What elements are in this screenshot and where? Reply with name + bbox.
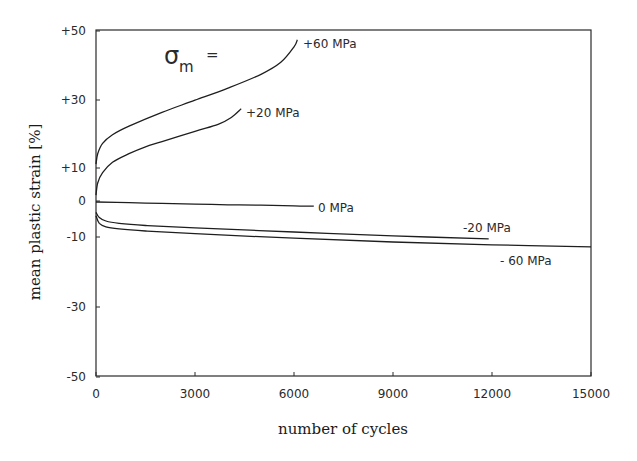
series-curves <box>96 40 591 247</box>
x-tick-label: 12000 <box>473 387 511 401</box>
y-tick-label: +10 <box>61 161 86 175</box>
sigma-subscript: m <box>179 58 194 76</box>
curve-0-mpa <box>96 202 314 206</box>
sigma-annotation: σ m = <box>164 42 219 76</box>
y-tick-label: +50 <box>61 24 86 38</box>
curve-plus-20-mpa <box>96 109 241 195</box>
label-plus-60-mpa: +60 MPa <box>303 37 357 51</box>
x-axis-title: number of cycles <box>278 420 408 438</box>
series-labels: +60 MPa+20 MPa0 MPa-20 MPa- 60 MPa <box>246 37 552 268</box>
y-tick-label: -10 <box>66 230 86 244</box>
y-tick-label: +30 <box>61 93 86 107</box>
label-0-mpa: 0 MPa <box>318 201 354 215</box>
curve-plus-60-mpa <box>96 40 297 164</box>
curve-minus-20-mpa <box>96 212 489 239</box>
sigma-symbol: σ <box>164 42 179 70</box>
label-minus-20-mpa: -20 MPa <box>463 221 511 235</box>
label-minus-60-mpa: - 60 MPa <box>500 254 552 268</box>
x-tick-label: 9000 <box>378 387 409 401</box>
y-tick-label: 0 <box>78 194 86 208</box>
curve-minus-60-mpa <box>96 216 591 247</box>
sigma-equals: = <box>206 46 219 64</box>
y-axis-ticks: +50+30+100-10-30-50 <box>61 24 100 384</box>
x-tick-label: 0 <box>92 387 100 401</box>
y-axis-title: mean plastic strain [%] <box>26 124 44 301</box>
y-tick-label: -50 <box>66 370 86 384</box>
strain-chart: +50+30+100-10-30-50 03000600090001200015… <box>0 0 637 461</box>
x-tick-label: 6000 <box>279 387 310 401</box>
y-tick-label: -30 <box>66 300 86 314</box>
label-plus-20-mpa: +20 MPa <box>246 106 300 120</box>
x-tick-label: 15000 <box>572 387 610 401</box>
x-tick-label: 3000 <box>180 387 211 401</box>
